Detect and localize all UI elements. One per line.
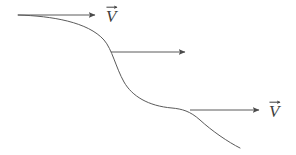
velocity-label-top-text: V [106, 7, 116, 26]
velocity-label-bottom-text: V [269, 102, 279, 121]
vector-v-glyph-bottom: V [269, 100, 279, 120]
velocity-label-bottom: V [269, 100, 279, 120]
velocity-vector-figure: V V [0, 0, 296, 155]
figure-canvas [0, 0, 296, 155]
velocity-label-top: V [106, 5, 116, 25]
streamline-curve [18, 15, 240, 148]
vector-v-glyph-top: V [106, 5, 116, 25]
